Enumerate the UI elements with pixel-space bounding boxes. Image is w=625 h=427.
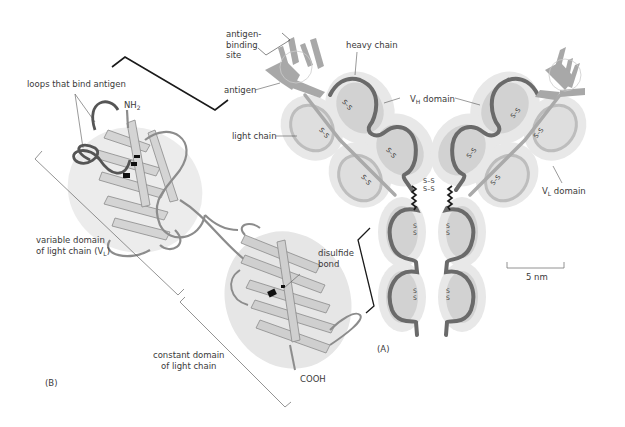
hinge-disulfide-mark: S–S	[423, 184, 435, 195]
label-vl-domain: VL domain	[542, 186, 586, 200]
antigen-right	[535, 47, 585, 100]
label-variable-domain-line2: of light chain (VL)	[36, 246, 110, 260]
label-nh2: NH2	[124, 100, 141, 114]
disulfide-vertical: S S	[413, 222, 417, 236]
panel-label-b: (B)	[45, 378, 57, 389]
label-variable-domain-line1: variable domain	[36, 235, 110, 246]
label-vh-suffix: domain	[420, 94, 455, 104]
antigen-left	[265, 37, 325, 98]
label-variable-domain-close-paren: )	[107, 246, 110, 256]
label-loops-that-bind-antigen: loops that bind antigen	[27, 79, 126, 90]
panel-label-a: (A)	[377, 344, 389, 355]
label-variable-domain: variable domain of light chain (VL)	[36, 235, 110, 259]
label-vh-domain: VH domain	[410, 94, 455, 108]
label-vl-suffix: domain	[551, 186, 586, 196]
label-cooh: COOH	[300, 374, 326, 385]
zoom-connector-bracket-bottom	[358, 228, 374, 313]
scale-bar	[507, 262, 564, 268]
antibody-structure-figure: loops that bind antigen NH2 variable dom…	[0, 0, 625, 427]
label-antigen-binding-site: antigen- binding site	[226, 29, 261, 61]
label-disulfide-bond: disulfide bond	[318, 248, 354, 269]
label-nh2-subscript: 2	[137, 104, 141, 111]
figure-artwork	[0, 0, 625, 427]
label-heavy-chain: heavy chain	[346, 40, 398, 51]
label-constant-domain: constant domain of light chain	[153, 350, 225, 371]
disulfide-vertical: S S	[446, 287, 450, 301]
disulfide-vertical: S S	[446, 222, 450, 236]
label-nh2-text: NH	[124, 100, 137, 110]
label-light-chain: light chain	[232, 131, 277, 142]
antigen-binding-site-bracket	[258, 33, 290, 55]
scale-bar-label: 5 nm	[526, 272, 548, 283]
disulfide-vertical: S S	[413, 287, 417, 301]
label-antigen: antigen	[224, 85, 256, 96]
label-variable-domain-line2-text: of light chain (V	[36, 246, 103, 256]
